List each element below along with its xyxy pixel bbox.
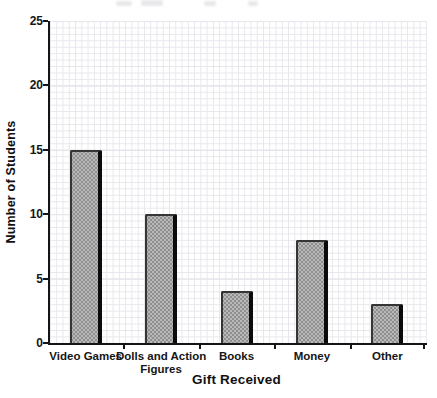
bar-chart-figure: Number of Students Gift Received 0510152… [0,0,437,398]
y-tick-mark [43,342,48,344]
bar-other [371,304,403,343]
y-tick-label: 5 [11,272,43,286]
cropped-title-remnant [248,1,258,6]
x-tick-mark [350,344,352,349]
bar-books [221,291,253,343]
category-label: Other [337,350,437,363]
y-tick-mark [43,149,48,151]
y-tick-label: 25 [11,14,43,28]
y-tick-mark [43,84,48,86]
y-tick-mark [43,213,48,215]
x-tick-mark [274,344,276,349]
bar-money [296,240,328,343]
x-tick-mark [199,344,201,349]
x-tick-mark [423,344,425,349]
cropped-title-remnant [141,0,163,6]
y-tick-label: 10 [11,207,43,221]
y-tick-mark [43,278,48,280]
cropped-title-remnant [204,1,216,6]
y-tick-label: 15 [11,143,43,157]
bar-video-games [70,150,102,343]
y-axis-title: Number of Students [4,102,18,262]
bar-dolls-and-action-figures [145,214,177,343]
y-tick-label: 20 [11,78,43,92]
cropped-title-remnant [116,1,132,6]
y-tick-mark [43,20,48,22]
x-tick-mark [123,344,125,349]
x-axis-title: Gift Received [48,372,425,387]
y-tick-label: 0 [11,336,43,350]
